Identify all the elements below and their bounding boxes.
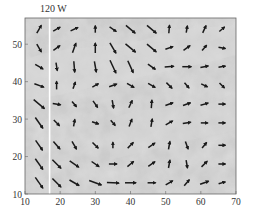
meridian-label: 120 W <box>40 3 67 14</box>
plot-area <box>25 18 236 194</box>
y-tick-label: 10 <box>13 190 23 200</box>
y-tick-label: 30 <box>13 115 23 125</box>
y-tick-label: 20 <box>13 152 23 162</box>
quiver-chart: 120 W 10203040506070 1020304050 <box>0 0 254 219</box>
x-tick-label: 50 <box>161 197 171 207</box>
x-tick-label: 40 <box>126 197 136 207</box>
y-tick-label: 50 <box>13 40 23 50</box>
vector-arrow <box>165 66 174 67</box>
y-tick-label: 40 <box>13 77 23 87</box>
vector-arrow <box>107 183 119 184</box>
vector-arrow <box>169 25 170 33</box>
x-tick-label: 60 <box>196 197 206 207</box>
vector-arrow <box>74 61 75 72</box>
x-tick-label: 30 <box>91 197 101 207</box>
x-tick-label: 70 <box>231 197 241 207</box>
vector-arrow <box>151 100 152 108</box>
x-tick-label: 20 <box>55 197 65 207</box>
